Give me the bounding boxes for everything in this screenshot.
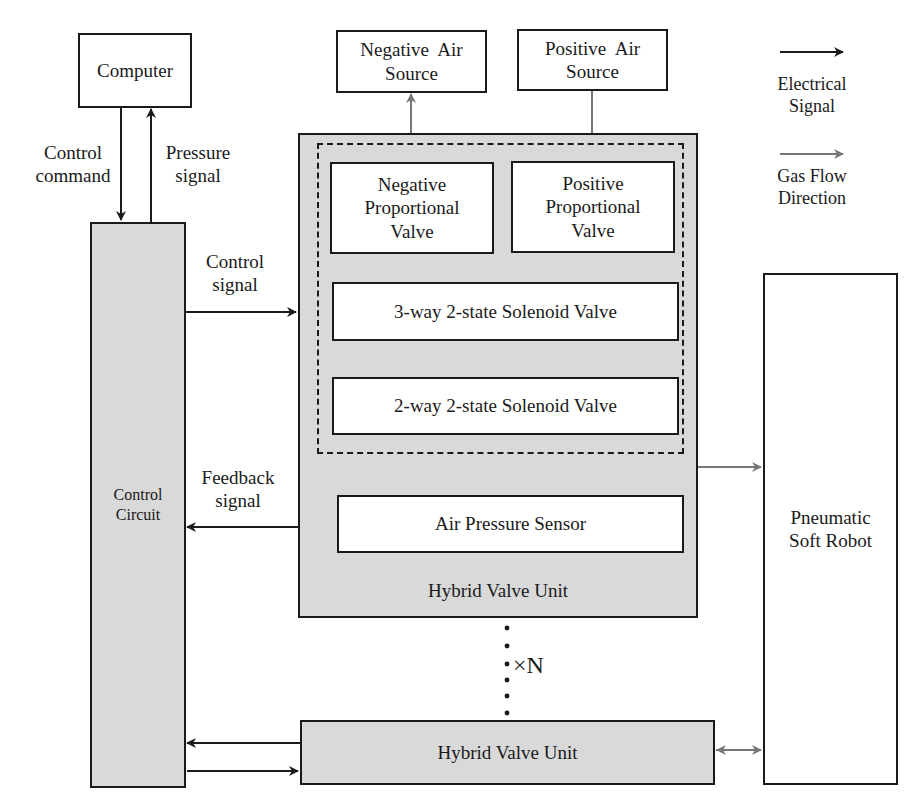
computer-box: Computer bbox=[78, 33, 192, 108]
positive-air-source-box: Positive Air Source bbox=[517, 29, 668, 91]
pneumatic-soft-robot-box: Pneumatic Soft Robot bbox=[763, 273, 898, 785]
two-way-solenoid-valve-box: 2-way 2-state Solenoid Valve bbox=[332, 377, 679, 435]
multiplier-label: ×N bbox=[513, 651, 544, 680]
legend-gas-flow-label: Gas Flow Direction bbox=[762, 166, 862, 210]
control-command-label: Control command bbox=[28, 141, 118, 187]
feedback-signal-label: Feedback signal bbox=[190, 466, 286, 512]
computer-label: Computer bbox=[97, 59, 173, 82]
negative-air-source-box: Negative Air Source bbox=[336, 30, 487, 93]
control-circuit-box: Control Circuit bbox=[90, 222, 186, 788]
positive-proportional-valve-box: Positive Proportional Valve bbox=[511, 161, 675, 253]
ellipsis-dots bbox=[505, 626, 510, 716]
lower-unit-robot-bidirectional-arrow bbox=[716, 745, 761, 755]
hybrid-valve-unit-label: Hybrid Valve Unit bbox=[428, 579, 568, 602]
air-pressure-sensor-box: Air Pressure Sensor bbox=[337, 495, 684, 553]
negative-proportional-valve-box: Negative Proportional Valve bbox=[330, 162, 494, 254]
pressure-signal-label: Pressure signal bbox=[158, 141, 238, 187]
legend-electrical-label: Electrical Signal bbox=[762, 74, 862, 118]
three-way-solenoid-valve-box: 3-way 2-state Solenoid Valve bbox=[332, 282, 679, 341]
hybrid-valve-unit-n: Hybrid Valve Unit bbox=[300, 720, 715, 785]
control-signal-label: Control signal bbox=[190, 250, 280, 296]
